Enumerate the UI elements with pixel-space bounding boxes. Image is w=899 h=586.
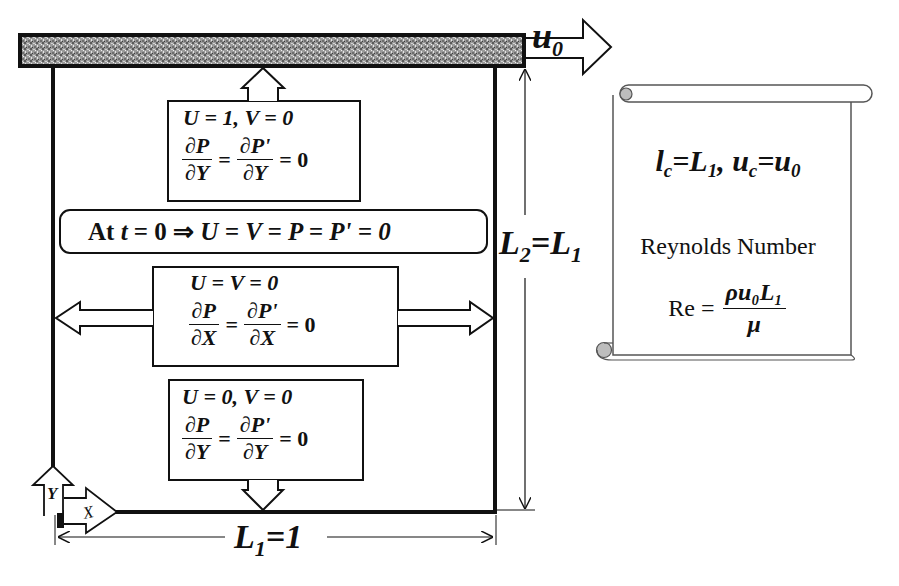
initial-condition-text: At t = 0 ⇒ U = V = P = P' = 0 [88, 219, 391, 244]
width-label: L1=1 [234, 520, 302, 560]
bottom-bc-pressure: ∂P∂Y=∂P'∂Y= 0 [180, 414, 312, 463]
y-axis-label: Y [47, 484, 57, 504]
reynolds-title: Reynolds Number [608, 233, 848, 260]
side-bc-velocity: U = V = 0 [190, 272, 278, 294]
top-bc-velocity: U = 1, V = 0 [183, 107, 293, 129]
characteristic-scales: lc=L1, uc=u0 [608, 144, 848, 182]
lid-velocity-label: u0 [532, 18, 563, 60]
top-bc-pressure: ∂P∂Y=∂P'∂Y= 0 [180, 135, 312, 184]
bottom-bc-velocity: U = 0, V = 0 [182, 386, 292, 408]
moving-lid [20, 35, 524, 66]
height-label: L2=L1 [499, 226, 582, 266]
side-bc-pressure: ∂P∂X=∂P'∂X= 0 [186, 300, 320, 349]
height-dimension [497, 70, 535, 510]
reynolds-formula: Re = ρu₀L₁ μ [608, 279, 848, 338]
